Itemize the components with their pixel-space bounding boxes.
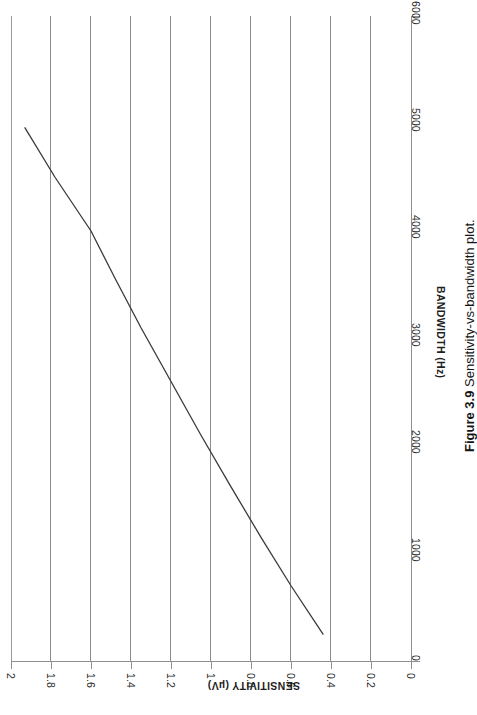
figure-caption-label: Figure 3.9 xyxy=(462,391,477,452)
figure-caption: Figure 3.9 Sensitivity-vs-bandwidth plot… xyxy=(462,219,477,452)
figure-caption-text: Sensitivity-vs-bandwidth plot. xyxy=(462,219,477,387)
